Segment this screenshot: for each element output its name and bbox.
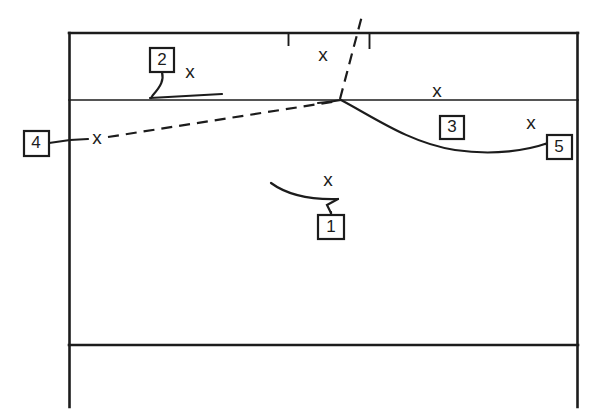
x-marker-right-edge: x [526, 112, 536, 133]
callout-2-underline-stroke [150, 94, 222, 98]
callout-box-5-label: 5 [554, 137, 563, 156]
callout-box-1[interactable]: 1 [318, 215, 344, 239]
x-marker-mid-right: x [432, 80, 442, 101]
callout-box-4-label: 4 [31, 133, 40, 152]
callout-4-leader-line [49, 140, 70, 143]
callout-box-3[interactable]: 3 [440, 116, 464, 139]
callout-box-2-label: 2 [157, 50, 166, 69]
tick-mark-group [289, 34, 370, 49]
callout-2-leader-line [151, 72, 163, 98]
dashed-ray-group [70, 12, 363, 140]
diagram-svg: x x x x x x 1 2 3 4 5 [0, 0, 594, 418]
x-marker-center-low: x [323, 169, 333, 190]
dashed-ray-stub [70, 139, 88, 140]
callout-box-4[interactable]: 4 [24, 131, 49, 156]
dashed-ray-lower-segment [108, 101, 338, 137]
x-marker-upper-center: x [318, 44, 328, 65]
x-marker-upper-left: x [185, 61, 195, 82]
callout-box-5[interactable]: 5 [547, 135, 572, 159]
callout-box-3-label: 3 [447, 117, 456, 136]
callout-4-leader-group [49, 140, 70, 143]
dashed-ray-upper-segment [340, 12, 363, 99]
technical-drawing-canvas: x x x x x x 1 2 3 4 5 [0, 0, 594, 418]
callout-1-arrow-head [327, 199, 338, 213]
callout-box-2[interactable]: 2 [150, 48, 174, 72]
x-marker-left-edge: x [92, 127, 102, 148]
callout-box-1-label: 1 [326, 217, 335, 236]
